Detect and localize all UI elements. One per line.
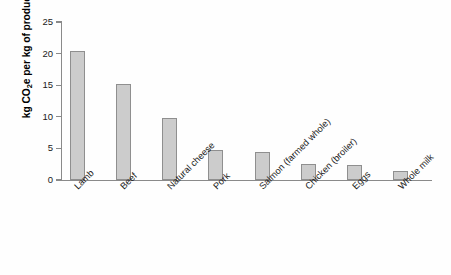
y-tick-label: 5 (0, 143, 53, 153)
y-axis-title-post: e per kg of product (21, 0, 32, 84)
y-tick-label-wrap: 20 (0, 49, 53, 59)
y-tick-label: 25 (0, 17, 53, 27)
y-tick-label-wrap: 15 (0, 80, 53, 90)
y-tick-label: 20 (0, 49, 53, 59)
bars-group (62, 22, 432, 180)
bar-chart-figure: kg CO2e per kg of product 0510152025 Lam… (0, 0, 451, 275)
y-tick-label: 15 (0, 80, 53, 90)
bar (162, 118, 177, 180)
y-tick-label-wrap: 5 (0, 143, 53, 153)
bar (70, 51, 85, 180)
y-tick-label-wrap: 25 (0, 17, 53, 27)
y-tick-label: 10 (0, 112, 53, 122)
y-tick-label-wrap: 0 (0, 175, 53, 185)
y-tick-label-wrap: 10 (0, 112, 53, 122)
y-tick-label: 0 (0, 175, 53, 185)
bar (116, 84, 131, 180)
